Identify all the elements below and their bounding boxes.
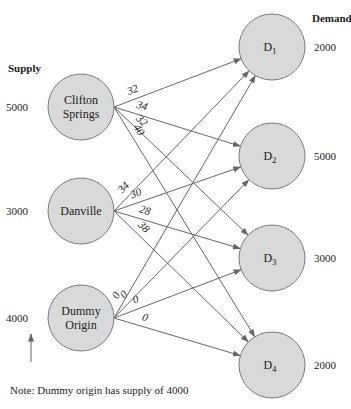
edge-cost-dummy-d4: 0 (141, 310, 150, 323)
edge-cost-danville-d2: 30 (128, 185, 144, 200)
demand-header: Demand (312, 12, 351, 24)
source-label: Dummy (61, 304, 100, 318)
destination-node-d4: D42000 (239, 332, 337, 398)
supply-value-dummy: 4000 (6, 312, 29, 324)
demand-value-d1: 2000 (314, 41, 337, 53)
source-label: Origin (65, 318, 96, 332)
edge-cost-labels: 32343240343028380000 (109, 82, 152, 324)
source-label: Danville (60, 204, 101, 218)
edge-cost-danville-d1: 34 (114, 179, 131, 196)
edge-cost-dummy-d3: 0 (131, 292, 141, 305)
demand-value-d4: 2000 (314, 359, 337, 371)
source-node-danville: Danville3000 (6, 178, 114, 244)
edge-dummy-d4 (114, 318, 240, 356)
edges-layer (114, 59, 255, 356)
footnote: Note: Dummy origin has supply of 4000 (10, 384, 189, 396)
source-label: Clifton (64, 93, 98, 107)
destination-node-d3: D33000 (239, 225, 337, 291)
demand-value-d3: 3000 (314, 252, 337, 264)
supply-value-danville: 3000 (6, 205, 29, 217)
demand-value-d2: 5000 (314, 150, 337, 162)
source-node-clifton: CliftonSprings5000 (6, 74, 114, 140)
source-node-dummy: DummyOrigin4000 (6, 285, 114, 351)
edge-cost-clifton-d1: 32 (124, 82, 140, 98)
transportation-network-diagram: 32343240343028380000 CliftonSprings5000D… (0, 0, 351, 409)
edge-cost-clifton-d2: 34 (134, 98, 149, 113)
supply-header: Supply (8, 62, 42, 74)
nodes-layer: CliftonSprings5000Danville3000DummyOrigi… (6, 14, 337, 398)
edge-cost-danville-d3: 28 (138, 203, 152, 218)
destination-node-d2: D25000 (239, 123, 337, 189)
edge-cost-danville-d4: 38 (135, 218, 152, 235)
supply-value-clifton: 5000 (6, 101, 29, 113)
source-label: Springs (63, 107, 100, 121)
